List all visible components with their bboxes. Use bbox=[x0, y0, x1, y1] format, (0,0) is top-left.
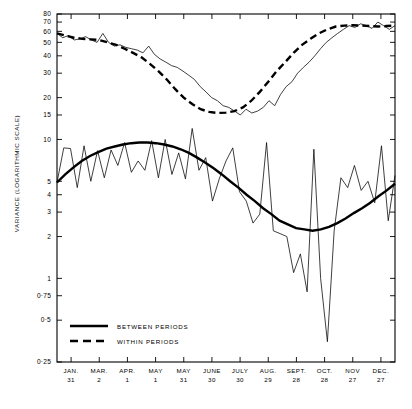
x-tick-label: MAY bbox=[177, 367, 191, 374]
legend-label: WITHIN PERIODS bbox=[117, 338, 179, 345]
x-tick-label: JUNE bbox=[203, 367, 221, 374]
data-series-group bbox=[57, 22, 395, 342]
series-line bbox=[57, 143, 395, 231]
x-tick-label: JULY bbox=[232, 367, 248, 374]
series-line bbox=[57, 25, 395, 113]
chart-legend: BETWEEN PERIODSWITHIN PERIODS bbox=[70, 323, 188, 345]
x-tick-label: NOV bbox=[345, 367, 360, 374]
x-axis-ticks: JAN.31MAR.2APR.1MAY1MAY31JUNE30JULY30AUG… bbox=[63, 14, 389, 383]
y-tick-label: 15 bbox=[43, 111, 51, 118]
y-tick-label: 4 bbox=[47, 191, 51, 198]
x-tick-label: APR. bbox=[119, 367, 135, 374]
x-tick-label: MAR. bbox=[91, 367, 108, 374]
x-tick-sublabel: 29 bbox=[264, 376, 272, 383]
x-tick-sublabel: 30 bbox=[236, 376, 244, 383]
x-tick-sublabel: 1 bbox=[125, 376, 129, 383]
x-tick-sublabel: 27 bbox=[349, 376, 357, 383]
y-tick-label: 2 bbox=[47, 233, 51, 240]
x-tick-label: SEPT. bbox=[287, 367, 306, 374]
y-tick-label: 0·25 bbox=[37, 358, 51, 365]
x-tick-sublabel: 27 bbox=[377, 376, 385, 383]
y-tick-label: 30 bbox=[43, 69, 51, 76]
y-tick-label: 80 bbox=[43, 10, 51, 17]
y-tick-label: 60 bbox=[43, 28, 51, 35]
y-tick-label: 20 bbox=[43, 94, 51, 101]
y-axis-ticks: 807060504030201510543210·750·50·25 bbox=[37, 10, 395, 365]
x-tick-sublabel: 28 bbox=[293, 376, 301, 383]
y-tick-label: 1 bbox=[47, 275, 51, 282]
x-tick-sublabel: 31 bbox=[67, 376, 75, 383]
x-tick-label: MAY bbox=[148, 367, 162, 374]
plot-frame bbox=[57, 14, 395, 362]
series-line bbox=[57, 128, 395, 341]
x-tick-sublabel: 1 bbox=[154, 376, 158, 383]
x-tick-sublabel: 31 bbox=[180, 376, 188, 383]
variance-log-chart: 807060504030201510543210·750·50·25 JAN.3… bbox=[0, 0, 412, 409]
chart-figure: VARIANCE (LOGARITHMIC SCALE) 80706050403… bbox=[0, 0, 412, 409]
y-axis-title: VARIANCE (LOGARITHMIC SCALE) bbox=[13, 94, 20, 254]
x-tick-label: JAN. bbox=[63, 367, 78, 374]
x-tick-sublabel: 30 bbox=[208, 376, 216, 383]
legend-label: BETWEEN PERIODS bbox=[117, 323, 188, 330]
y-tick-label: 5 bbox=[47, 178, 51, 185]
x-tick-sublabel: 2 bbox=[97, 376, 101, 383]
x-tick-label: DEC. bbox=[373, 367, 390, 374]
y-tick-label: 3 bbox=[47, 208, 51, 215]
x-tick-label: AUG. bbox=[260, 367, 277, 374]
y-tick-label: 0·75 bbox=[37, 292, 51, 299]
y-tick-label: 40 bbox=[43, 52, 51, 59]
y-tick-label: 10 bbox=[43, 136, 51, 143]
series-line bbox=[57, 22, 395, 115]
y-tick-label: 70 bbox=[43, 18, 51, 25]
y-tick-label: 50 bbox=[43, 39, 51, 46]
x-tick-sublabel: 28 bbox=[321, 376, 329, 383]
x-tick-label: OCT. bbox=[317, 367, 333, 374]
y-tick-label: 0·5 bbox=[41, 316, 51, 323]
